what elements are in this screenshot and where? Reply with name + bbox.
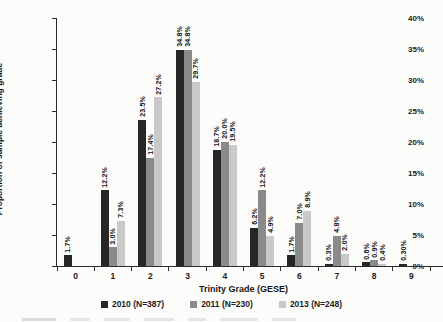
bar-2013-grade-1	[117, 221, 125, 266]
bar-2010-grade-4	[213, 150, 221, 266]
bar-value-text: 34.8%	[184, 26, 191, 47]
caption-fragment	[104, 318, 130, 321]
y-axis-tick-label: 40%	[384, 14, 424, 23]
caption-fragment	[220, 318, 258, 321]
figure-bar-chart: Proportion of sample achieving grade 0%5…	[0, 0, 443, 322]
x-axis-tick	[430, 267, 431, 271]
bar-value-label: 34.8%	[182, 26, 194, 47]
y-axis-tick-label: 20%	[384, 138, 424, 147]
y-axis-tick	[52, 49, 56, 50]
bar-value-label: 0.4%	[376, 244, 388, 261]
x-axis-category-label: 3	[185, 271, 190, 281]
plot-area: 0%5%10%15%20%25%30%35%40%01234567891.7%1…	[57, 18, 430, 266]
y-axis-tick-label: 35%	[384, 45, 424, 54]
x-axis-tick	[131, 267, 132, 271]
bar-value-label: 23.5%	[136, 96, 148, 117]
x-axis-category-label: 8	[372, 271, 377, 281]
bar-value-text: 0.30%	[400, 240, 407, 261]
bar-value-text: 19.5%	[229, 121, 236, 142]
bar-value-text: 7.3%	[117, 201, 124, 218]
x-axis-tick	[206, 267, 207, 271]
bar-value-label: 1.7%	[62, 236, 74, 253]
bar-2010-grade-3	[176, 50, 184, 266]
bar-value-label: 2.0%	[339, 234, 351, 251]
bar-2011-grade-2	[146, 158, 154, 266]
legend-label: 2011 (N=230)	[201, 299, 253, 309]
bar-2010-grade-5	[250, 228, 258, 266]
y-axis-tick-label: 30%	[384, 76, 424, 85]
bar-value-label: 12.2%	[99, 167, 111, 188]
legend-item-2010: 2010 (N=387)	[101, 299, 164, 309]
bar-value-text: 4.9%	[267, 216, 274, 233]
bar-value-label: 4.8%	[331, 216, 343, 233]
x-axis-category-label: 6	[297, 271, 302, 281]
bar-value-text: 1.7%	[64, 236, 71, 253]
y-axis-tick-label: 10%	[384, 200, 424, 209]
legend-item-2013: 2013 (N=248)	[279, 299, 342, 309]
bar-value-label: 0.30%	[397, 240, 409, 261]
legend-label: 2010 (N=387)	[112, 299, 164, 309]
caption-fragment	[188, 318, 206, 321]
bar-value-text: 3.0%	[109, 228, 116, 245]
bar-2011-grade-3	[184, 50, 192, 266]
caption-fragment	[22, 318, 56, 321]
legend-swatch	[279, 301, 286, 308]
x-axis-tick	[355, 267, 356, 271]
bar-2010-grade-7	[325, 264, 333, 266]
bar-2013-grade-6	[303, 211, 311, 266]
bar-2010-grade-8	[362, 262, 370, 266]
x-axis-category-label: 5	[260, 271, 265, 281]
y-axis-tick	[52, 142, 56, 143]
y-axis-tick	[52, 18, 56, 19]
x-axis-tick	[243, 267, 244, 271]
x-axis-category-label: 1	[111, 271, 116, 281]
bar-value-text: 2.0%	[341, 234, 348, 251]
y-axis-tick-label: 15%	[384, 169, 424, 178]
legend-label: 2013 (N=248)	[290, 299, 342, 309]
legend-swatch	[101, 301, 108, 308]
bar-2013-grade-5	[266, 236, 274, 266]
cropped-caption-remnant	[22, 316, 423, 321]
bar-value-text: 12.2%	[259, 167, 266, 188]
bar-value-text: 29.7%	[192, 58, 199, 79]
bar-2013-grade-3	[192, 82, 200, 266]
x-axis-tick	[94, 267, 95, 271]
bar-value-text: 0.4%	[379, 244, 386, 261]
bar-2011-grade-4	[221, 142, 229, 266]
x-axis-category-label: 2	[148, 271, 153, 281]
x-axis-category-label: 9	[409, 271, 414, 281]
bar-value-text: 8.9%	[304, 191, 311, 208]
bar-value-label: 27.2%	[152, 74, 164, 95]
bar-2013-grade-7	[341, 254, 349, 266]
legend-item-2011: 2011 (N=230)	[190, 299, 253, 309]
x-axis-title: Trinity Grade (GESE)	[57, 284, 430, 294]
bar-value-text: 27.2%	[155, 74, 162, 95]
y-axis-tick	[52, 111, 56, 112]
y-axis-title: Proportion of sample achieving grade	[0, 0, 6, 284]
bar-value-text: 17.4%	[147, 134, 154, 155]
bar-value-label: 4.9%	[264, 216, 276, 233]
bar-value-text: 0.3%	[325, 244, 332, 261]
y-axis-tick	[52, 80, 56, 81]
bar-2013-grade-4	[229, 145, 237, 266]
x-axis-category-label: 0	[73, 271, 78, 281]
bar-value-text: 6.2%	[251, 208, 258, 225]
bar-value-label: 12.2%	[256, 167, 268, 188]
bar-2010-grade-6	[287, 255, 295, 266]
y-axis-tick	[52, 173, 56, 174]
caption-fragment	[144, 318, 174, 321]
caption-fragment	[70, 318, 90, 321]
bar-value-text: 23.5%	[139, 96, 146, 117]
bar-2011-grade-6	[295, 223, 303, 266]
bar-value-text: 12.2%	[101, 167, 108, 188]
y-axis-tick-label: 0%	[384, 262, 424, 271]
bar-2011-grade-8	[370, 260, 378, 266]
y-axis-tick-label: 5%	[384, 231, 424, 240]
bar-value-label: 8.9%	[301, 191, 313, 208]
y-axis-tick	[52, 266, 56, 267]
bar-value-label: 29.7%	[190, 58, 202, 79]
bar-2011-grade-1	[109, 247, 117, 266]
legend-swatch	[190, 301, 197, 308]
bar-2013-grade-2	[154, 97, 162, 266]
x-axis-category-label: 4	[222, 271, 227, 281]
